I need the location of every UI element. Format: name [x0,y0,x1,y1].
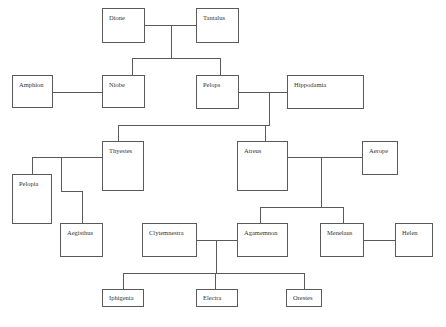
branch-line-aegisthus [61,191,83,192]
child-line-agamemnon [260,207,261,223]
node-thyestes: Thyestes [102,141,144,191]
descent-line-pelops [269,92,270,125]
node-helen: Helen [395,223,433,257]
descent-line-pelopia-branch [61,157,62,191]
node-pelops: Pelops [196,75,239,109]
node-niobe: Niobe [102,75,145,108]
descent-line-atreus [321,157,322,207]
node-hippodamia: Hippodamia [287,75,364,109]
sibling-line-thyestes-atreus [118,125,270,126]
union-line-amphion-niobe [52,92,102,93]
node-dione: Dione [102,8,145,43]
descent-line-agamemnon [216,240,217,273]
child-line-pelops [220,58,221,75]
sibling-line-niobe-pelops [132,58,220,59]
node-electra: Electra [196,289,238,307]
child-line-pelopia [32,157,33,174]
union-line-atreus-aerope [287,157,362,158]
node-orestes: Orestes [286,289,322,307]
node-menelaus: Menelaus [320,223,364,257]
node-amphion: Amphion [12,75,53,108]
node-pelopia: Pelopia [12,174,52,224]
node-agamemnon: Agamemnon [237,223,288,257]
descent-line-tantalus [171,25,172,58]
node-aerope: Aerope [362,141,398,175]
child-line-electra [215,273,216,289]
union-line-dione-tantalus [144,25,196,26]
family-tree-diagram: Dione Tantalus Amphion Niobe Pelops Hipp… [0,0,446,327]
node-tantalus: Tantalus [196,8,239,43]
node-aegisthus: Aegisthus [60,223,103,257]
child-line-iphigenia [123,273,124,289]
node-iphigenia: Iphigenia [102,289,144,307]
union-line-menelaus-helen [363,240,395,241]
sibling-line-iphigenia-orestes [123,273,305,274]
sibling-line-agamemnon-menelaus [260,207,344,208]
descent-line-thyestes [32,157,102,158]
node-clytemnestra: Clytemnestra [142,223,197,257]
child-line-niobe [132,58,133,75]
child-line-atreus [265,125,266,141]
child-line-aegisthus [82,191,83,223]
child-line-orestes [304,273,305,289]
node-atreus: Atreus [237,141,288,191]
child-line-thyestes [118,125,119,141]
child-line-menelaus [343,207,344,223]
union-line-pelops-hippodamia [238,92,287,93]
